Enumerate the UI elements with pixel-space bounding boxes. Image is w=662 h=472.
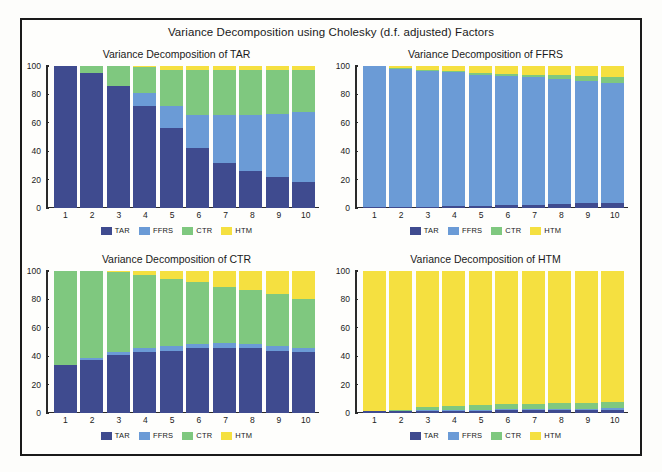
- stacked-bar[interactable]: [575, 66, 598, 208]
- legend-label: HTM: [235, 431, 252, 440]
- legend-item-htm[interactable]: HTM: [221, 226, 252, 235]
- x-labels-tar: 12345678910: [52, 210, 319, 220]
- stacked-bar[interactable]: [442, 271, 465, 413]
- legend-item-tar[interactable]: TAR: [101, 431, 130, 440]
- y-tick-label: 80: [341, 89, 355, 99]
- legend-label: FFRS: [462, 431, 482, 440]
- stacked-bar[interactable]: [186, 271, 209, 413]
- x-tick-label: 7: [521, 415, 548, 425]
- stacked-bar[interactable]: [213, 66, 236, 208]
- stacked-bar[interactable]: [80, 66, 103, 208]
- legend-item-tar[interactable]: TAR: [410, 431, 439, 440]
- legend-item-ffrs[interactable]: FFRS: [448, 431, 482, 440]
- y-tick-label: 20: [32, 380, 46, 390]
- y-tick-label: 0: [36, 408, 46, 418]
- x-tick-label: 1: [52, 415, 79, 425]
- legend-item-htm[interactable]: HTM: [530, 431, 561, 440]
- bar-segment-tar: [133, 106, 156, 208]
- y-tick-label: 0: [345, 408, 355, 418]
- legend-item-tar[interactable]: TAR: [101, 226, 130, 235]
- legend-item-htm[interactable]: HTM: [530, 226, 561, 235]
- stacked-bar[interactable]: [469, 66, 492, 208]
- bar-segment-htm: [601, 66, 624, 77]
- legend-item-tar[interactable]: TAR: [410, 226, 439, 235]
- stacked-bar[interactable]: [80, 271, 103, 413]
- x-tick-label: 3: [414, 210, 441, 220]
- legend-swatch-icon: [139, 432, 150, 440]
- y-tick-label: 80: [32, 294, 46, 304]
- stacked-bar[interactable]: [442, 66, 465, 208]
- stacked-bar[interactable]: [239, 66, 262, 208]
- bar-segment-ctr: [160, 279, 183, 346]
- stacked-bar[interactable]: [495, 271, 518, 413]
- legend-item-ctr[interactable]: CTR: [182, 431, 212, 440]
- bar-segment-ffrs: [186, 115, 209, 148]
- bar-segment-tar: [80, 73, 103, 208]
- stacked-bar[interactable]: [186, 66, 209, 208]
- y-tick-label: 20: [32, 175, 46, 185]
- stacked-bar[interactable]: [416, 271, 439, 413]
- panel-htm: Variance Decomposition of HTM 0204060801…: [331, 249, 640, 454]
- legend-swatch-icon: [448, 432, 459, 440]
- legend-item-ffrs[interactable]: FFRS: [139, 431, 173, 440]
- stacked-bar[interactable]: [160, 66, 183, 208]
- stacked-bar[interactable]: [522, 66, 545, 208]
- bar-segment-htm: [548, 271, 571, 403]
- stacked-bar[interactable]: [548, 66, 571, 208]
- panel-title-tar: Variance Decomposition of TAR: [22, 48, 331, 60]
- bar-group-tar: [52, 66, 317, 208]
- legend-swatch-icon: [448, 227, 459, 235]
- stacked-bar[interactable]: [389, 66, 412, 208]
- x-tick-label: 1: [361, 210, 388, 220]
- x-tick-label: 4: [132, 415, 159, 425]
- stacked-bar[interactable]: [601, 271, 624, 413]
- stacked-bar[interactable]: [54, 66, 77, 208]
- legend-item-ffrs[interactable]: FFRS: [448, 226, 482, 235]
- stacked-bar[interactable]: [495, 66, 518, 208]
- stacked-bar[interactable]: [54, 271, 77, 413]
- legend-item-htm[interactable]: HTM: [221, 431, 252, 440]
- stacked-bar[interactable]: [213, 271, 236, 413]
- stacked-bar[interactable]: [266, 271, 289, 413]
- legend-item-ctr[interactable]: CTR: [491, 431, 521, 440]
- stacked-bar[interactable]: [522, 271, 545, 413]
- bar-segment-tar: [495, 205, 518, 208]
- stacked-bar[interactable]: [133, 66, 156, 208]
- bar-segment-ffrs: [266, 114, 289, 178]
- bar-segment-ctr: [133, 67, 156, 93]
- bar-segment-ffrs: [239, 115, 262, 171]
- legend-item-ffrs[interactable]: FFRS: [139, 226, 173, 235]
- stacked-bar[interactable]: [133, 271, 156, 413]
- stacked-bar[interactable]: [548, 271, 571, 413]
- stacked-bar[interactable]: [469, 271, 492, 413]
- legend-label: TAR: [424, 431, 439, 440]
- stacked-bar[interactable]: [601, 66, 624, 208]
- stacked-bar[interactable]: [363, 271, 386, 413]
- stacked-bar[interactable]: [266, 66, 289, 208]
- stacked-bar[interactable]: [292, 66, 315, 208]
- bar-segment-tar: [107, 355, 130, 413]
- bar-segment-htm: [601, 271, 624, 402]
- panel-title-ffrs: Variance Decomposition of FFRS: [331, 48, 640, 60]
- stacked-bar[interactable]: [575, 271, 598, 413]
- x-tick-label: 7: [212, 415, 239, 425]
- stacked-bar[interactable]: [416, 66, 439, 208]
- stacked-bar[interactable]: [292, 271, 315, 413]
- x-tick-label: 4: [441, 415, 468, 425]
- stacked-bar[interactable]: [107, 66, 130, 208]
- figure-title: Variance Decomposition using Cholesky (d…: [22, 26, 640, 38]
- stacked-bar[interactable]: [107, 271, 130, 413]
- stacked-bar[interactable]: [239, 271, 262, 413]
- stacked-bar[interactable]: [389, 271, 412, 413]
- bar-segment-htm: [363, 271, 386, 411]
- panel-grid: Variance Decomposition of TAR 0204060801…: [22, 44, 640, 454]
- stacked-bar[interactable]: [160, 271, 183, 413]
- x-tick-label: 6: [186, 415, 213, 425]
- bar-segment-htm: [495, 66, 518, 74]
- bar-segment-tar: [239, 171, 262, 208]
- bar-segment-tar: [442, 411, 465, 413]
- stacked-bar[interactable]: [363, 66, 386, 208]
- y-tick-label: 60: [32, 323, 46, 333]
- legend-item-ctr[interactable]: CTR: [182, 226, 212, 235]
- legend-item-ctr[interactable]: CTR: [491, 226, 521, 235]
